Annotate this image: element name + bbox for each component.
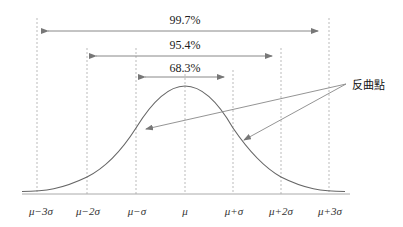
pointer-right-inflection [244,84,346,140]
tick-minus-1sigma: μ−σ [127,205,147,217]
bell-curve [22,86,345,192]
label-95-4: 95.4% [170,38,201,52]
pointer-left-inflection [146,84,346,129]
inflection-point-label: 反曲點 [352,79,385,92]
tick-plus-3sigma: μ+3σ [317,205,342,217]
tick-plus-2sigma: μ+2σ [268,205,293,217]
tick-minus-3sigma: μ−3σ [28,205,53,217]
inflection-pointers [146,84,346,140]
x-tick-labels: μ−3σ μ−2σ μ−σ μ μ+σ μ+2σ μ+3σ [28,205,342,217]
tick-minus-2sigma: μ−2σ [75,205,100,217]
label-68-3: 68.3% [170,61,201,75]
tick-plus-1sigma: μ+σ [224,205,244,217]
normal-distribution-diagram: 99.7% 95.4% 68.3% 反曲點 μ−3σ μ−2σ μ−σ μ μ+… [0,0,403,227]
tick-mean: μ [181,205,188,217]
label-99-7: 99.7% [170,13,201,27]
